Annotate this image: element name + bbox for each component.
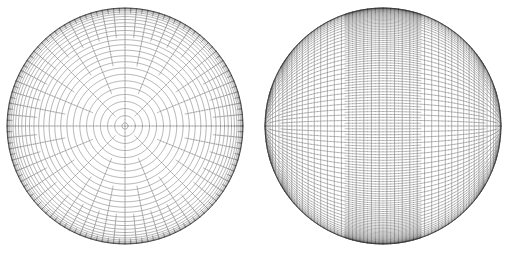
sphere-plot-right xyxy=(257,0,514,256)
sphere-plot-left xyxy=(0,0,257,256)
figure-root xyxy=(0,0,514,256)
sphere-panel-left xyxy=(0,0,257,256)
sphere-panel-right xyxy=(257,0,514,256)
